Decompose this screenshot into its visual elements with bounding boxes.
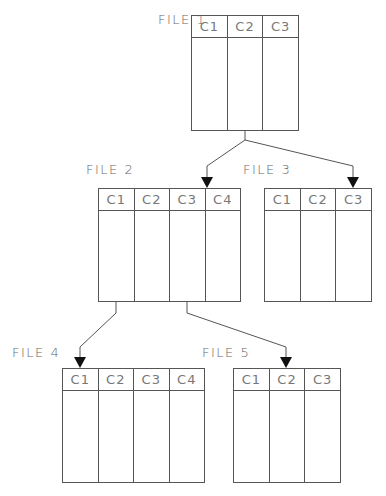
file2-table: C1 C2 C3 C4 [98, 188, 241, 302]
file5-table: C1 C2 C3 [233, 368, 341, 483]
file5-column-header: C2 [270, 369, 305, 391]
file3-label: FILE 3 [243, 162, 291, 177]
file1-column-header: C2 [228, 16, 263, 38]
file4-column-header: C2 [99, 369, 134, 391]
file1-column-header: C3 [263, 16, 298, 38]
connector-file1-file2 [207, 130, 245, 178]
connector-file2-file4 [80, 301, 116, 358]
file2-column-header: C4 [206, 189, 241, 211]
file1-table: C1 C2 C3 [191, 15, 299, 131]
file4-table: C1 C2 C3 C4 [62, 368, 205, 483]
file2-column-header: C3 [170, 189, 205, 211]
arrow-head-icon [280, 357, 292, 368]
file2-label: FILE 2 [86, 162, 134, 177]
file4-column-header: C3 [134, 369, 169, 391]
arrow-head-icon [201, 177, 213, 188]
arrow-head-icon [74, 357, 86, 368]
file4-column-header: C4 [170, 369, 205, 391]
file4-label: FILE 4 [12, 345, 60, 360]
file5-label: FILE 5 [202, 345, 250, 360]
file3-column-header: C2 [301, 189, 336, 211]
file3-column-header: C3 [336, 189, 371, 211]
file5-column-header: C3 [305, 369, 340, 391]
file2-column-header: C2 [135, 189, 170, 211]
file5-column-header: C1 [234, 369, 269, 391]
file3-table: C1 C2 C3 [264, 188, 372, 302]
arrow-head-icon [347, 177, 359, 188]
file3-column-header: C1 [265, 189, 300, 211]
file2-column-header: C1 [99, 189, 134, 211]
file1-column-header: C1 [192, 16, 227, 38]
file4-column-header: C1 [63, 369, 98, 391]
